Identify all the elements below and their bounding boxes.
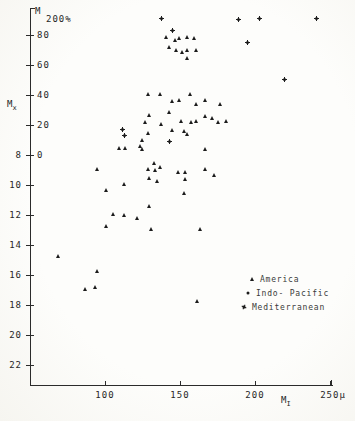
y-axis-inner-tick-label: 20 [37, 120, 50, 130]
y-axis-tick [26, 65, 34, 66]
y-axis-outer-tick-label: 8 [2, 150, 22, 160]
y-axis-tick [26, 305, 34, 306]
x-axis-title: MI [281, 395, 291, 408]
legend: America Indo- Pacific Mediterranean [241, 272, 329, 314]
scanned-scatter-figure: M 200% Mx MI 806040200810121416182022100… [0, 0, 355, 421]
x-axis-tick [330, 381, 331, 385]
mx-subscript: x [12, 104, 16, 112]
y-axis-tick [26, 125, 34, 126]
x-axis-tick-label: 250μ [311, 390, 355, 400]
y-axis-inner-tick-label: 40 [37, 90, 50, 100]
y-axis-outer-tick-label: 16 [2, 270, 22, 280]
y-axis-tick [26, 245, 34, 246]
y-axis-outer-tick-label: 20 [2, 330, 22, 340]
y-axis-outer-tick-label: 22 [2, 360, 22, 370]
y-axis-title-200pct: 200% [46, 14, 72, 24]
legend-item-mediterranean: Mediterranean [241, 300, 329, 314]
star-marker-icon [241, 304, 247, 310]
dot-marker-icon [245, 290, 251, 296]
y-axis-tick [26, 215, 34, 216]
legend-item-indo-pacific: Indo- Pacific [241, 286, 329, 300]
x-axis-tick-label: 100 [83, 390, 127, 400]
x-axis-tick [105, 381, 106, 385]
y-axis-tick [26, 95, 34, 96]
triangle-marker-icon [249, 276, 255, 282]
y-axis-outer-tick-label: 10 [2, 180, 22, 190]
x-axis-tick [255, 381, 256, 385]
x-axis-tick-label: 150 [158, 390, 202, 400]
y-axis-outer-tick-label: 14 [2, 240, 22, 250]
y-axis-outer-tick-label: 12 [2, 210, 22, 220]
mi-subscript: I [286, 400, 290, 408]
y-axis-outer-title: Mx [7, 99, 17, 112]
y-axis-tick [26, 275, 34, 276]
y-axis-tick [26, 35, 34, 36]
x-axis-end-tick [331, 380, 332, 385]
y-axis-tick [26, 365, 34, 366]
x-axis-tick-label: 200 [233, 390, 277, 400]
y-axis-inner-tick-label: 80 [37, 30, 50, 40]
x-axis-line [30, 385, 333, 386]
legend-label: Indo- Pacific [256, 289, 329, 298]
y-axis-inner-tick-label: 60 [37, 60, 50, 70]
legend-item-america: America [241, 272, 329, 286]
legend-label: America [260, 275, 299, 284]
y-axis-tick [26, 335, 34, 336]
y-axis-title-m: M [35, 6, 40, 16]
y-axis-tick [26, 155, 34, 156]
y-axis-tick [26, 185, 34, 186]
legend-label: Mediterranean [252, 303, 325, 312]
y-axis-outer-tick-label: 18 [2, 300, 22, 310]
x-axis-tick [180, 381, 181, 385]
y-axis-inner-tick-label: 0 [37, 150, 43, 160]
